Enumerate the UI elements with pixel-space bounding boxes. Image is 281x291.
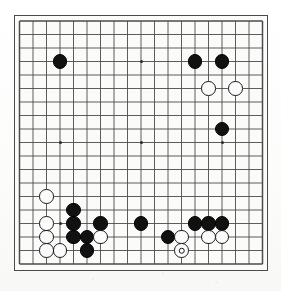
star-point [59,141,62,144]
white-stone[interactable] [39,189,54,204]
black-stone[interactable] [188,54,203,69]
white-stone[interactable] [201,230,216,245]
star-point [140,141,143,144]
star-point [59,222,62,225]
last-move-circle-icon [178,247,185,254]
white-stone[interactable] [53,243,68,258]
black-stone[interactable] [215,54,230,69]
go-board[interactable] [14,15,268,271]
black-stone[interactable] [66,216,81,231]
black-stone[interactable] [134,216,149,231]
black-stone[interactable] [53,54,68,69]
black-stone[interactable] [188,216,203,231]
white-stone[interactable] [39,243,54,258]
black-stone[interactable] [93,216,108,231]
black-stone[interactable] [215,216,230,231]
black-stone[interactable] [80,243,95,258]
white-stone[interactable] [228,81,243,96]
white-stone[interactable] [39,230,54,245]
white-stone[interactable] [93,230,108,245]
white-stone[interactable] [201,81,216,96]
marked-white-stone[interactable] [174,243,189,258]
black-stone[interactable] [66,203,81,218]
black-stone[interactable] [201,216,216,231]
star-point [140,60,143,63]
go-board-figure [0,0,281,291]
white-stone[interactable] [174,230,189,245]
black-stone[interactable] [66,230,81,245]
white-stone[interactable] [39,216,54,231]
star-point [221,141,224,144]
